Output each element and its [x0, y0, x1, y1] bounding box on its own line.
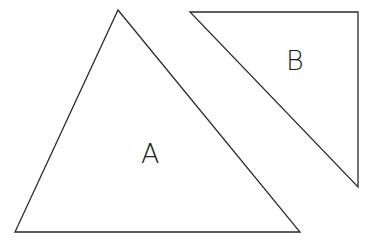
- geometry-figure: A B: [0, 0, 375, 246]
- triangle-a-label: A: [141, 138, 159, 169]
- triangle-b-label: B: [286, 45, 304, 76]
- figure-background: [0, 0, 375, 246]
- figure-canvas: A B: [0, 0, 375, 246]
